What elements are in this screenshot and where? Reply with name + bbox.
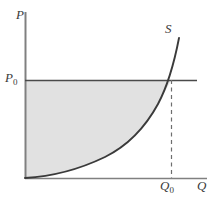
- price-level-label: P0: [5, 71, 17, 87]
- supply-curve-figure: P P0 S Q0 Q: [0, 0, 217, 201]
- figure-canvas: [0, 0, 217, 201]
- quantity-level-label: Q0: [160, 179, 174, 195]
- quantity-level-letter: Q: [160, 178, 169, 193]
- supply-curve-label: S: [165, 22, 172, 35]
- producer-surplus-region: [25, 80, 171, 178]
- price-level-letter: P: [5, 70, 13, 85]
- x-axis-label: Q: [197, 179, 206, 192]
- quantity-level-subscript: 0: [169, 185, 174, 195]
- y-axis-label: P: [16, 8, 24, 21]
- price-level-subscript: 0: [13, 77, 18, 87]
